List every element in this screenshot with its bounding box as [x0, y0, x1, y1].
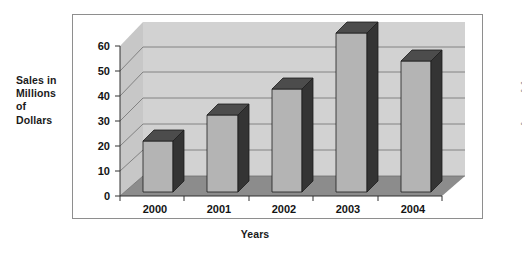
y-axis-title-line-3: of: [16, 100, 76, 113]
y-tick-label-30: 30: [98, 115, 110, 127]
y-tick-labels: 60 50 40 30 20 10 0: [98, 40, 110, 202]
bar-2001-front: [207, 115, 238, 192]
y-tick-label-60: 60: [98, 40, 110, 52]
x-tick-labels: 2000 2001 2002 2003 2004: [143, 203, 426, 215]
x-tick-label-2001: 2001: [207, 203, 231, 215]
y-axis-title: Sales in Millions of Dollars: [16, 74, 76, 127]
bar-2002-front: [272, 89, 302, 192]
y-tick-label-40: 40: [98, 90, 110, 102]
bar-2004[interactable]: [401, 50, 442, 192]
bar-2003[interactable]: [336, 22, 378, 192]
bar-2004-front: [401, 61, 431, 192]
x-tick-label-2000: 2000: [143, 203, 167, 215]
y-tick-label-50: 50: [98, 65, 110, 77]
bar-2003-side: [367, 22, 378, 192]
bar-2004-side: [431, 50, 442, 192]
figure-container: Sales in Millions of Dollars: [0, 0, 522, 253]
bar-2001-side: [238, 104, 249, 192]
bar-2002[interactable]: [272, 78, 313, 192]
bar-2003-front: [336, 33, 367, 192]
x-axis-title: Years: [200, 228, 310, 241]
bar-2001[interactable]: [207, 104, 249, 192]
bar-chart-3d: 60 50 40 30 20 10 0: [72, 14, 483, 219]
y-tick-label-0: 0: [104, 190, 110, 202]
bar-2002-side: [302, 78, 313, 192]
x-axis: [120, 196, 442, 201]
y-tick-label-10: 10: [98, 165, 110, 177]
y-tick-label-20: 20: [98, 140, 110, 152]
bar-2000[interactable]: [143, 130, 184, 192]
y-axis-title-line-4: Dollars: [16, 114, 76, 127]
y-axis-title-line-2: Millions: [16, 87, 76, 100]
x-tick-label-2004: 2004: [401, 203, 426, 215]
y-axis-title-line-1: Sales in: [16, 74, 76, 87]
y-axis: [115, 46, 120, 196]
bar-2000-front: [143, 141, 173, 192]
x-tick-label-2002: 2002: [272, 203, 296, 215]
x-tick-label-2003: 2003: [336, 203, 360, 215]
